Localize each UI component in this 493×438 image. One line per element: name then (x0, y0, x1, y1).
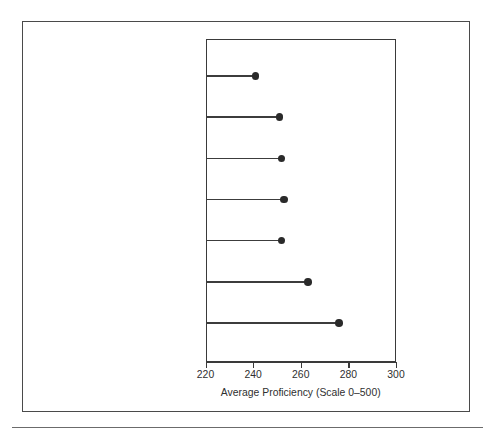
stem-line (206, 116, 280, 118)
x-axis-title: Average Proficiency (Scale 0–500) (206, 386, 397, 400)
stem-line (206, 75, 256, 77)
x-axis-tick-label: 220 (186, 368, 226, 382)
stem-line (206, 240, 282, 242)
plot-frame (206, 39, 397, 362)
stem-line (206, 322, 339, 324)
lollipop-chart: Greater than 45%Between 41 and 45%Betwee… (0, 0, 493, 438)
data-point-marker (335, 319, 343, 327)
x-axis-tick-label: 240 (233, 368, 273, 382)
x-axis-tick-label: 260 (281, 368, 321, 382)
data-point-marker (252, 72, 260, 80)
x-axis-tick-label: 300 (376, 368, 416, 382)
stem-line (206, 281, 308, 283)
stem-line (206, 158, 282, 160)
stem-line (206, 199, 285, 201)
x-axis-tick-label: 280 (328, 368, 368, 382)
data-point-marker (280, 196, 288, 204)
bottom-divider-rule (12, 427, 483, 428)
data-point-marker (304, 278, 312, 286)
data-point-marker (276, 113, 284, 121)
